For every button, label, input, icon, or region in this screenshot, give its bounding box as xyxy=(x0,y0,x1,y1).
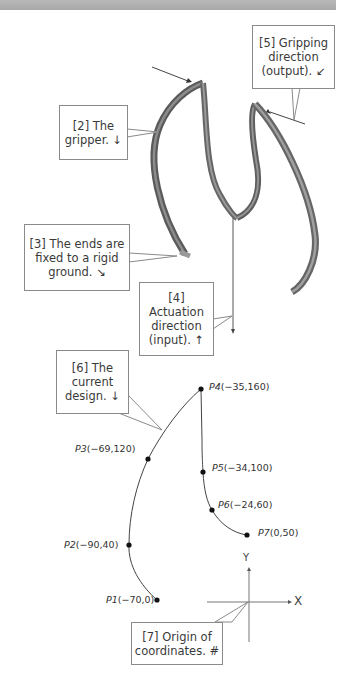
point-coords: (−24,60) xyxy=(230,499,273,510)
point-coords: (0,50) xyxy=(270,527,299,538)
point-name: P1 xyxy=(106,594,118,605)
callout-text: [3] The ends are xyxy=(30,237,125,251)
point-coords: (−70,0) xyxy=(118,594,155,605)
callout-text: [6] The xyxy=(72,361,113,375)
point-p2 xyxy=(126,542,131,547)
callout-text: [4] xyxy=(168,291,184,305)
point-p6 xyxy=(209,507,214,512)
point-name: P6 xyxy=(218,499,230,510)
callout-text: Actuation xyxy=(149,305,204,319)
point-coords: (−90,40) xyxy=(76,539,119,550)
point-p4 xyxy=(198,386,203,391)
callout-text: [2] The xyxy=(73,119,114,133)
point-name: P3 xyxy=(75,443,87,454)
callout-text: (output). ↙ xyxy=(262,64,326,78)
callout-gripper: [2] The gripper. ↓ xyxy=(59,105,128,160)
label-p3: P3(−69,120) xyxy=(75,443,135,454)
point-p5 xyxy=(200,469,205,474)
x-axis-label: X xyxy=(294,594,302,608)
label-p7: P7(0,50) xyxy=(258,527,298,538)
callout-text: ground. ↘ xyxy=(48,265,106,279)
point-name: P4 xyxy=(209,381,221,392)
callout-text: direction xyxy=(151,319,201,333)
y-axis-label: Y xyxy=(243,552,249,563)
label-p2: P2(−90,40) xyxy=(64,539,118,550)
point-coords: (−69,120) xyxy=(87,443,136,454)
callout-text: fixed to a rigid xyxy=(35,251,118,265)
label-p4: P4(−35,160) xyxy=(209,381,269,392)
gripping-force-arrow-left xyxy=(152,67,192,83)
point-name: P2 xyxy=(64,539,76,550)
point-name: P7 xyxy=(258,527,270,538)
callout-text: (input). ↑ xyxy=(149,333,205,347)
point-p1 xyxy=(154,597,159,602)
callout-actuation-direction: [4] Actuation direction (input). ↑ xyxy=(139,282,214,356)
label-p1: P1(−70,0) xyxy=(106,594,154,605)
point-p7 xyxy=(244,532,249,537)
label-p5: P5(−34,100) xyxy=(212,462,272,473)
point-p3 xyxy=(145,456,150,461)
callout-text: [7] Origin of xyxy=(142,630,211,644)
callout-text: design. ↓ xyxy=(65,389,120,403)
callout-current-design: [6] The current design. ↓ xyxy=(56,350,129,414)
callout-origin: [7] Origin of coordinates. # xyxy=(131,622,223,665)
callout-text: [5] Gripping xyxy=(259,36,328,50)
callout-gripping-direction: [5] Gripping direction (output). ↙ xyxy=(252,25,335,89)
callout-text: current xyxy=(72,375,114,389)
callout-text: gripper. ↓ xyxy=(65,133,123,147)
gripper-ribbon xyxy=(154,83,315,292)
callout-text: coordinates. # xyxy=(135,644,219,658)
point-coords: (−35,160) xyxy=(221,381,270,392)
point-name: P5 xyxy=(212,462,224,473)
label-p6: P6(−24,60) xyxy=(218,499,272,510)
point-coords: (−34,100) xyxy=(224,462,273,473)
callout-text: direction xyxy=(268,50,318,64)
callout-fixed-ends: [3] The ends are fixed to a rigid ground… xyxy=(24,224,130,291)
